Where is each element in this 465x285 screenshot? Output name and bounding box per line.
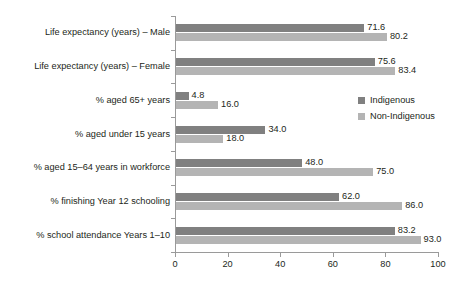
legend-swatch-icon	[358, 97, 365, 104]
bar-non-indigenous	[176, 202, 402, 210]
legend-label: Indigenous	[370, 95, 415, 106]
bar-indigenous	[176, 159, 302, 167]
x-axis-tick	[438, 253, 439, 257]
bar-non-indigenous	[176, 101, 218, 109]
bar-value-label: 18.0	[226, 134, 244, 143]
x-axis-tick-label: 60	[313, 259, 353, 270]
legend-item[interactable]: Non-Indigenous	[358, 110, 435, 123]
x-axis-tick	[175, 253, 176, 257]
bar-group: 34.018.0	[176, 126, 439, 143]
bar-non-indigenous	[176, 168, 373, 176]
bar-value-label: 4.8	[192, 91, 205, 100]
x-axis-tick-label: 40	[260, 259, 300, 270]
bar-indigenous	[176, 126, 265, 134]
bar-value-label: 62.0	[342, 192, 360, 201]
bar-value-label: 83.4	[398, 66, 416, 75]
x-axis-tick	[333, 253, 334, 257]
category-label: % finishing Year 12 schooling	[0, 196, 170, 207]
bar-value-label: 86.0	[405, 201, 423, 210]
x-axis-tick-label: 80	[365, 259, 405, 270]
bar-group: 62.086.0	[176, 193, 439, 210]
legend-swatch-icon	[358, 113, 365, 120]
bar-non-indigenous	[176, 67, 395, 75]
bar-group: 75.683.4	[176, 58, 439, 75]
bar-indigenous	[176, 92, 189, 100]
category-label: % school attendance Years 1–10	[0, 230, 170, 241]
bar-value-label: 48.0	[305, 158, 323, 167]
bar-value-label: 34.0	[268, 125, 286, 134]
bar-non-indigenous	[176, 33, 387, 41]
x-axis-tick	[385, 253, 386, 257]
bar-value-label: 75.6	[378, 57, 396, 66]
plot-area: 020406080100 71.680.275.683.44.816.034.0…	[175, 16, 438, 252]
category-label: % aged 65+ years	[0, 95, 170, 106]
bar-group: 83.293.0	[176, 227, 439, 244]
x-axis-tick-label: 20	[208, 259, 248, 270]
bar-value-label: 83.2	[398, 226, 416, 235]
category-label: % aged under 15 years	[0, 129, 170, 140]
bar-non-indigenous	[176, 135, 223, 143]
y-axis-tick	[171, 117, 175, 118]
y-axis-tick	[171, 50, 175, 51]
bar-value-label: 71.6	[367, 23, 385, 32]
bar-chart: Life expectancy (years) – MaleLife expec…	[0, 0, 465, 285]
x-axis-tick	[280, 253, 281, 257]
bar-value-label: 80.2	[390, 32, 408, 41]
y-axis-tick	[171, 218, 175, 219]
x-axis-line	[175, 252, 439, 253]
x-axis-tick	[228, 253, 229, 257]
bar-group: 48.075.0	[176, 159, 439, 176]
bar-indigenous	[176, 24, 364, 32]
bar-value-label: 16.0	[221, 100, 239, 109]
bar-group: 71.680.2	[176, 24, 439, 41]
y-axis-tick	[171, 151, 175, 152]
bar-indigenous	[176, 227, 395, 235]
category-label: Life expectancy (years) – Female	[0, 61, 170, 72]
y-axis-tick	[171, 16, 175, 17]
y-axis-tick	[171, 83, 175, 84]
category-label: % aged 15–64 years in workforce	[0, 162, 170, 173]
y-axis-tick	[171, 185, 175, 186]
bar-indigenous	[176, 193, 339, 201]
legend-label: Non-Indigenous	[370, 111, 435, 122]
x-axis-tick-label: 0	[155, 259, 195, 270]
category-axis-labels: Life expectancy (years) – MaleLife expec…	[0, 16, 170, 252]
bar-indigenous	[176, 58, 375, 66]
chart-legend: IndigenousNon-Indigenous	[358, 94, 435, 126]
bar-non-indigenous	[176, 236, 421, 244]
legend-item[interactable]: Indigenous	[358, 94, 435, 107]
bar-value-label: 93.0	[424, 235, 442, 244]
x-axis-tick-label: 100	[418, 259, 458, 270]
category-label: Life expectancy (years) – Male	[0, 27, 170, 38]
bar-value-label: 75.0	[376, 167, 394, 176]
